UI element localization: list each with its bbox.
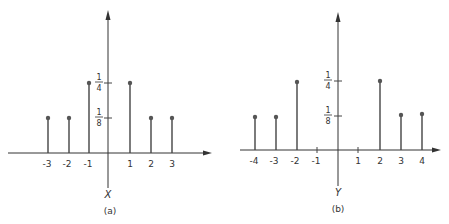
figure: 1 4 1 8 -3 -2 -1 1 2 3 X (a) 1 <box>0 0 449 224</box>
y-label-quarter-num: 1 <box>325 71 330 80</box>
y-label-eighth-den: 8 <box>96 119 101 128</box>
y-axis-arrow-icon <box>106 10 111 20</box>
y-label-quarter-den: 4 <box>96 84 101 93</box>
x-tick-label: 1 <box>127 159 133 169</box>
x-tick-label: 3 <box>398 156 404 166</box>
variable-label-x: X <box>104 189 113 200</box>
y-axis-arrow-icon <box>336 12 341 22</box>
x-tick-label: -1 <box>84 159 93 169</box>
y-label-quarter-num: 1 <box>96 73 101 82</box>
y-label-eighth-den: 8 <box>325 117 330 126</box>
x-tick-label: 1 <box>355 156 361 166</box>
x-tick-label: -2 <box>63 159 72 169</box>
x-tick-label: 4 <box>419 156 425 166</box>
panel-b: 1 4 1 8 -4 -3 -2 -1 1 2 3 4 Y (b) <box>240 12 441 214</box>
stems-a <box>46 81 174 153</box>
x-axis-arrow-icon <box>432 148 441 153</box>
panel-caption-b: (b) <box>332 204 345 214</box>
y-label-eighth-num: 1 <box>325 106 330 115</box>
x-axis-arrow-icon <box>203 151 212 156</box>
panel-caption-a: (a) <box>104 206 117 216</box>
x-tick-label: -3 <box>43 159 52 169</box>
y-label-eighth-num: 1 <box>96 108 101 117</box>
x-tick-label: -3 <box>270 156 279 166</box>
variable-label-y: Y <box>335 187 342 198</box>
x-tick-label: 2 <box>148 159 154 169</box>
x-tick-label: -1 <box>312 156 321 166</box>
panel-a: 1 4 1 8 -3 -2 -1 1 2 3 X (a) <box>8 10 212 216</box>
x-tick-label: 3 <box>169 159 175 169</box>
x-tick-label: 2 <box>377 156 383 166</box>
y-label-quarter-den: 4 <box>325 82 330 91</box>
x-tick-label: -2 <box>291 156 300 166</box>
x-tick-label: -4 <box>250 156 259 166</box>
